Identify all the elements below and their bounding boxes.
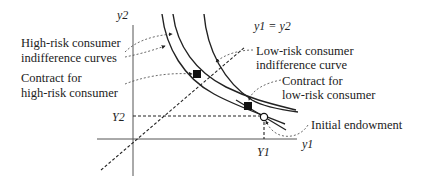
leader-high-risk-curve-b — [125, 46, 165, 57]
contract-high-risk-marker — [193, 70, 201, 78]
x-axis-label: y1 — [301, 137, 313, 151]
leader-contract-high — [125, 74, 192, 84]
contract-low-risk-label: Contract for low-risk consumer — [282, 74, 376, 102]
y2-tick-label: Y2 — [112, 110, 125, 124]
diagonal-label: y1 = y2 — [253, 19, 291, 33]
high-risk-curves-label: High-risk consumer indifference curves — [21, 36, 124, 65]
leader-high-risk-curve-a — [125, 34, 172, 52]
endowment-marker — [260, 113, 267, 120]
certainty-line — [101, 47, 245, 170]
initial-endowment-label: Initial endowment — [311, 118, 403, 132]
contract-high-risk-label: Contract for high-risk consumer — [21, 71, 119, 100]
y1-tick-label: Y1 — [257, 145, 270, 159]
leader-contract-low — [249, 80, 281, 100]
insurance-diagram: y2 y1 y1 = y2 Y2 Y1 High-risk consumer i… — [0, 0, 433, 187]
low-risk-curve-label: Low-risk consumer indifference curve — [256, 44, 357, 72]
y-axis-label: y2 — [116, 8, 128, 22]
leader-endowment — [266, 121, 308, 136]
contract-low-risk-marker — [244, 102, 252, 110]
